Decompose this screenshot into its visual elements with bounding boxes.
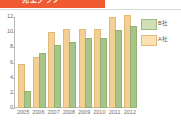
bar-group xyxy=(32,17,47,108)
x-tick-label: 2011 xyxy=(107,109,123,116)
legend-swatch-b xyxy=(141,19,157,30)
x-tick-label: 2006 xyxy=(30,109,46,116)
legend-label-a: A社 xyxy=(158,36,168,43)
legend-swatch-a xyxy=(141,35,157,46)
chart-legend: B社 A社 xyxy=(141,18,179,50)
bar-group xyxy=(93,17,108,108)
chart-page: 売上グラフ 024681012 200520062007200820092010… xyxy=(0,0,181,127)
legend-item-b: B社 xyxy=(141,18,179,30)
bar-group xyxy=(17,17,32,108)
legend-item-a: A社 xyxy=(141,34,179,46)
x-tick-label: 2009 xyxy=(76,109,92,116)
title-banner: 売上グラフ xyxy=(0,0,105,8)
x-tick-label: 2010 xyxy=(91,109,107,116)
bar-group xyxy=(47,17,62,108)
page-title: 売上グラフ xyxy=(22,0,60,4)
header-divider xyxy=(0,9,181,10)
y-tick-mark xyxy=(12,78,15,79)
x-tick-label: 2007 xyxy=(46,109,62,116)
x-tick-label: 2005 xyxy=(15,109,31,116)
bar-series-b xyxy=(100,38,107,108)
bar-groups xyxy=(15,17,137,108)
bar-group xyxy=(78,17,93,108)
bar-series-b xyxy=(24,91,31,108)
plot-area xyxy=(14,17,137,108)
y-tick-mark xyxy=(12,17,15,18)
x-tick-label: 2008 xyxy=(61,109,77,116)
legend-label-b: B社 xyxy=(158,20,168,27)
y-tick-mark xyxy=(12,32,15,33)
bar-series-b xyxy=(85,38,92,108)
x-axis-labels: 20052006200720082009201020112012 xyxy=(14,109,137,119)
bar-group xyxy=(123,17,138,108)
bar-series-b xyxy=(115,30,122,108)
bar-series-b xyxy=(54,45,61,108)
y-tick-mark xyxy=(12,47,15,48)
bar-series-b xyxy=(130,26,137,108)
bar-series-b xyxy=(69,42,76,108)
bar-group xyxy=(108,17,123,108)
bar-group xyxy=(62,17,77,108)
y-tick-mark xyxy=(12,63,15,64)
x-tick-label: 2012 xyxy=(122,109,138,116)
y-tick-mark xyxy=(12,93,15,94)
bar-series-b xyxy=(39,53,46,108)
